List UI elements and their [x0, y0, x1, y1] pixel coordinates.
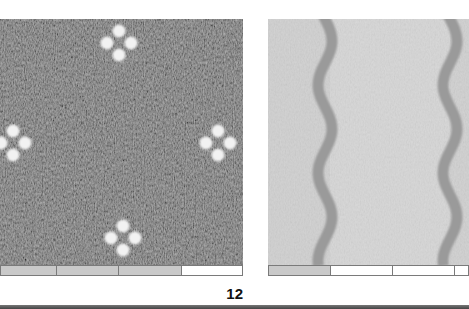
scale-bar-segment — [118, 265, 183, 276]
right-fabric-texture — [268, 19, 469, 265]
bottom-rule — [0, 305, 469, 309]
left-fabric-texture — [0, 19, 243, 265]
scale-bar-segment — [392, 265, 455, 276]
right-fabric-swatch — [268, 19, 469, 265]
scale-bar-segment — [268, 265, 331, 276]
scale-bar-segment — [0, 265, 57, 276]
scale-bar-segment — [181, 265, 243, 276]
left-scale-bar — [0, 265, 243, 276]
left-fabric-swatch — [0, 19, 243, 265]
scale-bar-segment — [454, 265, 469, 276]
scale-bar-segment — [56, 265, 119, 276]
right-scale-bar — [268, 265, 469, 276]
scale-bar-segment — [330, 265, 394, 276]
page-number: 12 — [203, 285, 243, 303]
